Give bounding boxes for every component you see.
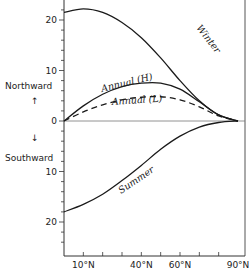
winter-label: Winter [194, 22, 224, 56]
northward-label: Northward [5, 81, 52, 91]
x-tick-label: 60°N [169, 260, 192, 270]
summer-label: Summer [116, 163, 157, 196]
y-tick-label: 20 [46, 217, 58, 227]
annual-l-label: Annual (L) [110, 92, 163, 107]
north-arrow-icon: ↑ [31, 96, 39, 106]
annual-h-label: Annual (H) [99, 70, 154, 94]
x-tick-label: 90°N [227, 260, 250, 270]
x-ticks: 10°N40°N60°N90°N [72, 252, 249, 270]
y-tick-label: 0 [51, 116, 57, 126]
southward-label: Southward [5, 153, 53, 163]
y-tick-label: 10 [46, 66, 58, 76]
south-arrow-icon: ↓ [31, 133, 39, 143]
x-tick-label: 10°N [72, 260, 95, 270]
y-tick-label: 20 [46, 15, 58, 25]
y-tick-label: 10 [46, 167, 58, 177]
x-tick-label: 40°N [130, 260, 153, 270]
meridional-transport-chart: 201001020 10°N40°N60°N90°N Winter Annual… [0, 0, 251, 274]
y-ticks: 201001020 [46, 10, 64, 242]
